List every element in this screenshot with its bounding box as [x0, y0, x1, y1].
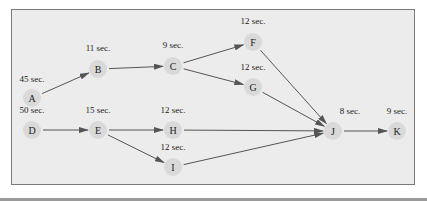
node-e: E15 sec. — [86, 105, 111, 139]
edge-a-to-b — [42, 73, 89, 94]
precedence-diagram: A45 sec.B11 sec.C9 sec.F12 sec.G12 sec.D… — [0, 0, 427, 201]
node-g: G12 sec. — [241, 62, 266, 96]
bottom-rule — [0, 198, 427, 201]
node-label: I — [171, 162, 174, 173]
task-time-label: 9 sec. — [163, 40, 184, 50]
node-h: H12 sec. — [161, 105, 186, 139]
edge-h-to-j — [184, 130, 323, 131]
node-label: C — [170, 61, 177, 72]
node-label: J — [331, 126, 335, 137]
task-time-label: 12 sec. — [241, 62, 266, 72]
node-label: A — [28, 93, 36, 104]
edge-f-to-j — [260, 50, 326, 123]
edge-i-to-j — [184, 133, 324, 164]
edge-e-to-i — [108, 135, 164, 163]
node-i: I12 sec. — [161, 142, 186, 176]
node-label: E — [95, 125, 101, 136]
task-time-label: 12 sec. — [161, 105, 186, 115]
edge-c-to-g — [184, 69, 244, 85]
edge-g-to-j — [263, 92, 325, 126]
node-b: B11 sec. — [86, 43, 111, 78]
nodes-layer: A45 sec.B11 sec.C9 sec.F12 sec.G12 sec.D… — [20, 16, 408, 176]
task-time-label: 8 sec. — [340, 106, 361, 116]
node-label: F — [250, 37, 256, 48]
node-a: A45 sec. — [20, 74, 45, 107]
task-time-label: 12 sec. — [241, 16, 266, 26]
task-time-label: 45 sec. — [20, 74, 45, 84]
edge-c-to-f — [184, 45, 244, 63]
node-d: D50 sec. — [20, 105, 45, 139]
node-c: C9 sec. — [163, 40, 184, 75]
task-time-label: 50 sec. — [20, 105, 45, 115]
node-label: B — [95, 64, 102, 75]
task-time-label: 12 sec. — [161, 142, 186, 152]
node-label: K — [393, 126, 401, 137]
node-k: K9 sec. — [387, 106, 408, 140]
node-label: H — [169, 125, 176, 136]
node-f: F12 sec. — [241, 16, 266, 51]
task-time-label: 9 sec. — [387, 106, 408, 116]
task-time-label: 15 sec. — [86, 105, 111, 115]
node-label: G — [249, 82, 256, 93]
edge-b-to-c — [109, 66, 163, 68]
node-label: D — [28, 125, 35, 136]
task-time-label: 11 sec. — [86, 43, 111, 53]
node-j: J8 sec. — [324, 106, 360, 140]
